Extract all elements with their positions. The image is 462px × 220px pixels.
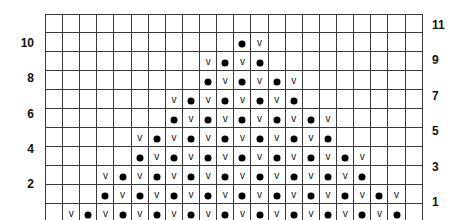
grid-cell: [251, 89, 268, 108]
grid-cell: [388, 203, 405, 220]
v-symbol: v: [326, 190, 331, 200]
grid-cell: [148, 89, 165, 108]
grid-cell: [319, 127, 336, 146]
grid-cell: [131, 15, 148, 33]
grid-cell: [46, 127, 63, 146]
grid-cell: [217, 32, 234, 51]
v-symbol: v: [394, 190, 399, 200]
dot-icon: [239, 193, 245, 199]
grid-cell: [234, 146, 251, 165]
grid-cell: [165, 51, 182, 70]
dot-icon: [188, 174, 194, 180]
grid-cell: [337, 15, 354, 33]
grid-cell: [80, 146, 97, 165]
grid-cell: [80, 108, 97, 127]
dot-icon: [274, 79, 280, 85]
v-symbol: v: [171, 95, 176, 105]
dot-icon: [325, 136, 331, 142]
grid-cell: [251, 51, 268, 70]
v-symbol: v: [240, 95, 245, 105]
v-symbol: v: [240, 133, 245, 143]
grid-cell: [114, 146, 131, 165]
grid-cell: [268, 32, 285, 51]
grid-cell: [388, 70, 405, 89]
grid-cell: [131, 108, 148, 127]
v-symbol: v: [343, 171, 348, 181]
grid-cell: [63, 165, 80, 184]
grid-cell: v: [217, 146, 234, 165]
grid-cell: [319, 89, 336, 108]
v-symbol: v: [171, 133, 176, 143]
v-symbol: v: [274, 133, 279, 143]
grid-cell: [182, 203, 199, 220]
grid-cell: [405, 32, 422, 51]
stitch-chart: vvvvvvvvvvvvvvvvvvvvvvvvvvvvvvvvvvvvvvvv…: [45, 14, 423, 209]
grid-cell: [337, 108, 354, 127]
dot-icon: [205, 193, 211, 199]
dot-icon: [137, 155, 143, 161]
dot-icon: [154, 212, 160, 218]
grid-cell: [63, 108, 80, 127]
grid-cell: [285, 15, 302, 33]
row-label-right: 5: [432, 125, 452, 137]
grid-cell: [97, 127, 114, 146]
grid-cell: [217, 51, 234, 70]
grid-cell: [285, 165, 302, 184]
grid-cell: v: [251, 32, 268, 51]
grid-cell: [371, 89, 388, 108]
grid-cell: [80, 15, 97, 33]
grid-cell: [80, 165, 97, 184]
row-label-right: 7: [432, 90, 452, 102]
grid-cell: [354, 51, 371, 70]
grid-cell: [63, 127, 80, 146]
dot-icon: [222, 136, 228, 142]
grid-cell: [302, 51, 319, 70]
grid-cell: v: [217, 70, 234, 89]
grid-cell: v: [285, 108, 302, 127]
grid-cell: v: [148, 184, 165, 203]
grid-cell: [319, 15, 336, 33]
dot-icon: [291, 136, 297, 142]
dot-icon: [171, 117, 177, 123]
grid-cell: [371, 108, 388, 127]
grid-cell: [80, 89, 97, 108]
grid-cell: [371, 146, 388, 165]
grid-cell: v: [165, 165, 182, 184]
grid-cell: v: [97, 165, 114, 184]
grid-cell: [217, 165, 234, 184]
grid-cell: [114, 89, 131, 108]
v-symbol: v: [206, 133, 211, 143]
grid-cell: [268, 146, 285, 165]
v-symbol: v: [274, 171, 279, 181]
grid-cell: v: [319, 108, 336, 127]
grid-cell: [200, 70, 217, 89]
grid-cell: v: [200, 127, 217, 146]
dot-icon: [222, 60, 228, 66]
grid-cell: [234, 108, 251, 127]
v-symbol: v: [291, 114, 296, 124]
grid-cell: [234, 70, 251, 89]
grid-cell: [354, 127, 371, 146]
dot-icon: [308, 155, 314, 161]
grid-cell: v: [217, 184, 234, 203]
grid-cell: [63, 146, 80, 165]
v-symbol: v: [291, 76, 296, 86]
dot-icon: [325, 174, 331, 180]
v-symbol: v: [154, 152, 159, 162]
grid-cell: [337, 51, 354, 70]
v-symbol: v: [360, 152, 365, 162]
row-label-left: 8: [0, 72, 34, 84]
grid-cell: [80, 203, 97, 220]
grid-cell: [217, 89, 234, 108]
v-symbol: v: [206, 209, 211, 219]
grid-cell: v: [354, 184, 371, 203]
grid-cell: [97, 15, 114, 33]
grid-cell: [319, 70, 336, 89]
v-symbol: v: [291, 190, 296, 200]
grid-cell: [182, 70, 199, 89]
v-symbol: v: [257, 38, 262, 48]
v-symbol: v: [189, 152, 194, 162]
v-symbol: v: [308, 171, 313, 181]
grid-cell: [182, 32, 199, 51]
grid-cell: [354, 70, 371, 89]
